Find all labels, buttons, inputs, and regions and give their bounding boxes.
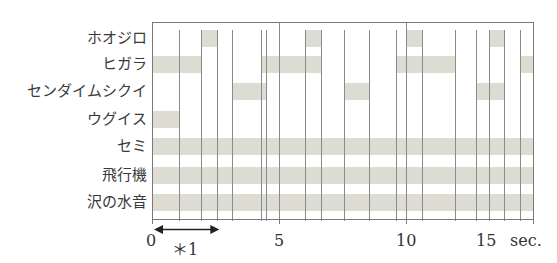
row-label: 飛行機 bbox=[102, 167, 147, 184]
bar-segment bbox=[152, 167, 533, 184]
bar-segment bbox=[232, 83, 266, 100]
bar-segment bbox=[152, 111, 179, 128]
plot-area bbox=[0, 0, 557, 263]
bar-segment bbox=[396, 56, 455, 73]
bar-segment bbox=[261, 56, 321, 73]
bar-segment bbox=[152, 194, 533, 211]
x-tick-label: 10 bbox=[396, 232, 416, 250]
bar-segment bbox=[201, 30, 217, 47]
sound-timeline-chart: ホオジロヒガラセンダイムシクイウグイスセミ飛行機沢の水音 051015 sec.… bbox=[0, 0, 557, 263]
bar-segment bbox=[152, 56, 201, 73]
row-label: ヒガラ bbox=[102, 56, 147, 73]
x-tick-label: 0 bbox=[146, 232, 156, 250]
row-label: ウグイス bbox=[87, 111, 147, 128]
bar-segment bbox=[520, 56, 533, 73]
row-label: 沢の水音 bbox=[87, 194, 147, 211]
arrow-right-head-icon bbox=[210, 225, 219, 234]
bar-segment bbox=[489, 30, 504, 47]
bar-segment bbox=[152, 138, 533, 155]
x-tick-label: 15 bbox=[476, 232, 496, 250]
row-label: センダイムシクイ bbox=[27, 83, 147, 100]
annotation-label: ＊1 bbox=[172, 236, 198, 260]
row-label: ホオジロ bbox=[87, 30, 147, 47]
bar-segment bbox=[406, 30, 422, 47]
row-label: セミ bbox=[117, 138, 147, 155]
bar-segment bbox=[476, 83, 504, 100]
bar-segment bbox=[344, 83, 369, 100]
bar-segment bbox=[305, 30, 321, 47]
x-tick-label: 5 bbox=[274, 232, 284, 250]
x-axis-unit-label: sec. bbox=[510, 232, 542, 250]
